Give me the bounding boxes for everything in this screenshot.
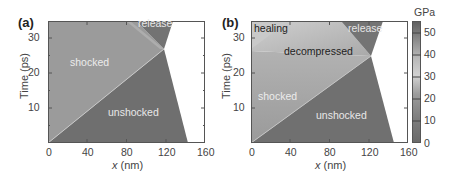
ytick-30-a: 30 xyxy=(28,31,40,43)
region-label-unshocked-b: unshocked xyxy=(316,109,367,121)
panel-a-plot xyxy=(48,21,206,144)
colorbar xyxy=(412,21,422,144)
region-label-shocked-b: shocked xyxy=(258,90,297,102)
region-label-shocked-a: shocked xyxy=(70,56,109,68)
panel-a-label: (a) xyxy=(18,15,34,30)
xtick-160-a: 160 xyxy=(197,146,215,158)
region-label-healing: healing xyxy=(254,22,288,34)
ytick-20-b: 20 xyxy=(233,66,245,78)
region-label-decompressed: decompressed xyxy=(284,45,353,57)
panel-b-label: (b) xyxy=(222,15,239,30)
ylabel-b: Time (ps) xyxy=(220,46,232,106)
xtick-80-b: 80 xyxy=(324,146,336,158)
xtick-160-b: 160 xyxy=(400,146,418,158)
xtick-80-a: 80 xyxy=(121,146,133,158)
cbar-tick-30: 30 xyxy=(424,70,436,82)
xlabel-a: x (nm) xyxy=(112,159,143,171)
xtick-0-b: 0 xyxy=(249,146,255,158)
xtick-0-a: 0 xyxy=(46,146,52,158)
xtick-40-a: 40 xyxy=(82,146,94,158)
region-label-release-b: release xyxy=(348,22,382,34)
xtick-120-b: 120 xyxy=(361,146,379,158)
region-label-unshocked-a: unshocked xyxy=(108,106,159,118)
region-label-release-a: release xyxy=(138,17,172,29)
cbar-tick-40: 40 xyxy=(424,48,436,60)
panel-b-plot xyxy=(251,21,409,144)
cbar-tick-20: 20 xyxy=(424,92,436,104)
ytick-10-b: 10 xyxy=(233,101,245,113)
cbar-tick-10: 10 xyxy=(424,114,436,126)
ytick-30-b: 30 xyxy=(233,31,245,43)
xtick-120-a: 120 xyxy=(158,146,176,158)
colorbar-unit: GPa xyxy=(414,6,435,18)
cbar-tick-50: 50 xyxy=(424,26,436,38)
xlabel-b: x (nm) xyxy=(315,159,346,171)
xtick-40-b: 40 xyxy=(285,146,297,158)
ylabel-a: Time (ps) xyxy=(18,46,30,106)
cbar-tick-0: 0 xyxy=(424,137,430,149)
